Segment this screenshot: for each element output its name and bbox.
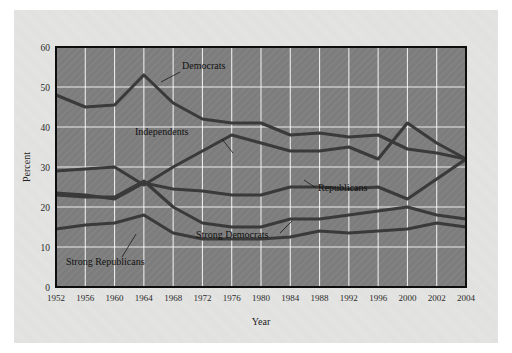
annotation-label: Strong Democrats — [196, 229, 269, 240]
x-tick-label: 1980 — [252, 293, 271, 303]
y-tick-label: 50 — [41, 83, 51, 93]
y-axis-title: Percent — [21, 152, 32, 182]
x-tick-label: 1988 — [311, 293, 330, 303]
x-tick-label: 2004 — [457, 293, 476, 303]
annotation-label: Democrats — [182, 60, 225, 71]
y-tick-label: 30 — [41, 163, 51, 173]
annotation-label: Independents — [135, 126, 188, 137]
x-tick-label: 2000 — [398, 293, 417, 303]
figure: 60 50 40 30 20 10 0 19521956196019641968… — [0, 0, 512, 353]
chart-svg: 60 50 40 30 20 10 0 19521956196019641968… — [0, 0, 512, 353]
x-tick-label: 1976 — [223, 293, 242, 303]
y-tick-label: 60 — [41, 43, 51, 53]
y-tick-label: 40 — [41, 123, 51, 133]
x-tick-label: 1984 — [281, 293, 300, 303]
x-tick-label: 1968 — [164, 293, 183, 303]
y-tick-label: 0 — [45, 283, 50, 293]
x-tick-label: 1972 — [193, 293, 211, 303]
annotation-label: Republicans — [318, 182, 368, 193]
x-tick-label: 1992 — [340, 293, 358, 303]
x-axis-ticks: 1952195619601964196819721976198019841988… — [47, 293, 476, 303]
x-tick-label: 2002 — [428, 293, 446, 303]
x-tick-label: 1964 — [135, 293, 154, 303]
x-tick-label: 1960 — [106, 293, 125, 303]
annotation-label: Strong Republicans — [66, 256, 145, 267]
x-tick-label: 1996 — [369, 293, 388, 303]
y-tick-label: 10 — [41, 243, 51, 253]
plot-area: 60 50 40 30 20 10 0 19521956196019641968… — [0, 0, 512, 353]
x-tick-label: 1952 — [47, 293, 65, 303]
y-axis-ticks: 60 50 40 30 20 10 0 — [41, 43, 51, 293]
x-axis-title: Year — [252, 316, 271, 327]
y-tick-label: 20 — [41, 203, 51, 213]
x-tick-label: 1956 — [76, 293, 95, 303]
